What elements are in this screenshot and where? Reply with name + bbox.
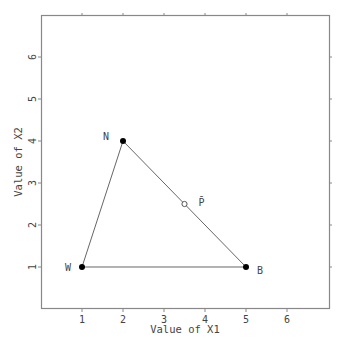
y-tick-label: 2 [27,222,38,228]
centroid-point-marker [182,201,187,206]
x-tick-label: 5 [243,314,249,325]
x-tick-label: 6 [284,314,290,325]
vertex-point-marker [243,264,249,270]
point-label: P̄ [198,196,204,208]
y-axis-ticks: 123456 [27,54,332,270]
point-label: W [65,262,72,273]
triangle-outline [82,141,246,267]
y-tick-label: 6 [27,54,38,60]
point-label: N [103,131,109,142]
vertex-point-marker [120,138,126,144]
y-tick-label: 3 [27,180,38,186]
x-axis-ticks: 123456 [79,13,290,325]
x-tick-label: 1 [79,314,85,325]
triangle-scatter-plot: 123456 123456 Value of X1 Value of X2 WN… [0,0,341,349]
plot-frame [42,16,330,309]
point-label: B [257,265,263,276]
y-tick-label: 4 [27,138,38,144]
y-axis-label: Value of X2 [12,127,24,197]
x-axis-label: Value of X1 [150,323,220,335]
vertex-point-marker [79,264,85,270]
x-tick-label: 2 [120,314,126,325]
y-tick-label: 5 [27,96,38,102]
y-tick-label: 1 [27,264,38,270]
